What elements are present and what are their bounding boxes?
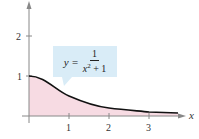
x-axis-label: x bbox=[188, 109, 194, 121]
y-tick-label-2: 2 bbox=[16, 31, 21, 42]
equation-numerator: 1 bbox=[90, 49, 99, 61]
y-tick-label-1: 1 bbox=[17, 71, 22, 82]
shaded-area bbox=[29, 76, 178, 116]
equation-callout: y = 1 x2 + 1 bbox=[53, 46, 117, 77]
equation-lhs: y = bbox=[64, 56, 79, 68]
x-axis-arrow-icon bbox=[178, 114, 186, 119]
callout-pointer bbox=[62, 77, 72, 86]
x-tick-label-2: 2 bbox=[106, 122, 111, 133]
x-tick-label-1: 1 bbox=[66, 122, 71, 133]
equation-fraction: 1 x2 + 1 bbox=[83, 49, 107, 74]
y-axis-arrow-icon bbox=[27, 1, 32, 9]
equation-denominator: x2 + 1 bbox=[83, 61, 107, 74]
denominator-rest: + 1 bbox=[91, 63, 107, 74]
x-tick-label-3: 3 bbox=[146, 122, 151, 133]
